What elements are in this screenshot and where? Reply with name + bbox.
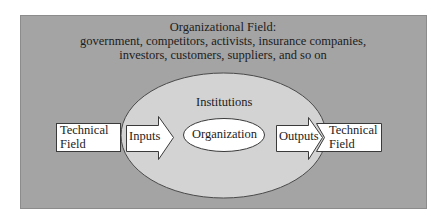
organizational-field-members-line1: government, competitors, activists, insu… bbox=[20, 34, 426, 48]
outputs-label: Outputs bbox=[279, 130, 319, 144]
technical-field-right-label: Technical Field bbox=[329, 124, 377, 151]
organizational-field-diagram: Organizational Field: government, compet… bbox=[0, 0, 444, 216]
technical-field-left-label: Technical Field bbox=[60, 124, 108, 151]
organizational-field-members-line2: investors, customers, suppliers, and so … bbox=[20, 48, 426, 62]
technical-field-right-line2: Field bbox=[329, 138, 377, 152]
organizational-field-header: Organizational Field: government, compet… bbox=[20, 20, 426, 62]
inputs-label: Inputs bbox=[129, 130, 160, 144]
organizational-field-title: Organizational Field: bbox=[20, 20, 426, 34]
technical-field-right-line1: Technical bbox=[329, 124, 377, 138]
technical-field-left-line2: Field bbox=[60, 138, 108, 152]
technical-field-left-line1: Technical bbox=[60, 124, 108, 138]
institutions-label: Institutions bbox=[196, 96, 252, 110]
organization-label: Organization bbox=[192, 128, 257, 142]
